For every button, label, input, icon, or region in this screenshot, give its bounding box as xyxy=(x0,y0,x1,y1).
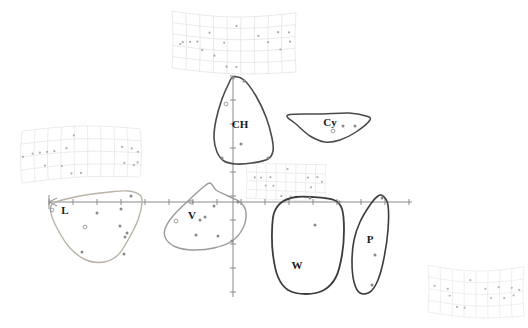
grid-landmark-point xyxy=(272,185,274,187)
data-point xyxy=(243,80,246,83)
data-point xyxy=(354,125,357,128)
grid-landmark-point xyxy=(434,285,436,287)
grid-line-vertical xyxy=(325,165,326,202)
data-point xyxy=(309,197,312,200)
data-point xyxy=(195,234,198,237)
data-point xyxy=(224,102,228,106)
grid-landmark-point xyxy=(267,41,269,43)
grid-line-horizontal xyxy=(21,139,141,145)
grid-landmark-point xyxy=(464,307,466,309)
grid-line-horizontal xyxy=(173,34,295,40)
data-point xyxy=(119,225,122,228)
data-point xyxy=(96,212,99,215)
data-point xyxy=(124,236,127,239)
grid-landmark-point xyxy=(447,288,449,290)
grid-line-horizontal xyxy=(21,151,142,157)
data-point-layer xyxy=(50,77,383,287)
data-point xyxy=(374,254,377,257)
grid-landmark-point xyxy=(469,279,471,281)
grid-line-vertical xyxy=(186,13,187,70)
group-label-p: P xyxy=(367,233,374,245)
grid-line-vertical xyxy=(295,13,296,72)
grid-landmark-point xyxy=(39,152,41,154)
data-point xyxy=(314,224,317,227)
data-point xyxy=(213,205,216,208)
grid-left xyxy=(21,126,142,183)
grid-line-horizontal xyxy=(22,126,140,131)
grid-landmark-point xyxy=(254,176,256,178)
grid-landmark-point xyxy=(288,31,290,33)
data-point xyxy=(371,284,374,287)
figure-canvas: CHCyLVWP xyxy=(0,0,528,328)
data-point xyxy=(232,77,235,80)
data-point xyxy=(338,201,341,204)
group-label-ch: CH xyxy=(232,118,249,130)
axis-layer xyxy=(49,76,412,297)
grid-landmark-point xyxy=(286,168,288,170)
grid-landmark-point xyxy=(137,151,139,153)
group-label-l: L xyxy=(61,204,68,216)
grid-landmark-point xyxy=(44,164,46,166)
grid-landmark-point xyxy=(61,165,63,167)
data-point xyxy=(381,197,384,200)
grid-landmark-point xyxy=(511,287,513,289)
data-point xyxy=(199,219,202,222)
data-point xyxy=(267,157,270,160)
data-point xyxy=(120,208,123,211)
group-label-cy: Cy xyxy=(323,116,337,128)
data-point xyxy=(130,195,133,198)
data-point xyxy=(204,216,207,219)
grid-landmark-point xyxy=(121,146,123,148)
grid-landmark-point xyxy=(518,289,520,291)
grid-top xyxy=(172,11,296,74)
grid-line-horizontal xyxy=(172,68,296,74)
grid-landmark-point xyxy=(269,176,271,178)
data-point xyxy=(81,251,84,254)
grid-landmark-point xyxy=(80,172,82,174)
grid-line-vertical xyxy=(246,163,247,198)
grid-landmark-point xyxy=(46,151,48,153)
grid-landmark-point xyxy=(22,156,24,158)
grid-landmark-point xyxy=(449,295,451,297)
grid-landmark-point xyxy=(133,164,135,166)
grid-landmark-point xyxy=(456,306,458,308)
grid-line-horizontal xyxy=(173,45,295,51)
grid-landmark-point xyxy=(310,186,312,188)
grid-landmark-point xyxy=(484,288,486,290)
grid-landmark-point xyxy=(189,41,191,43)
deformation-grid-layer xyxy=(21,11,525,318)
grid-landmark-point xyxy=(208,32,210,34)
grid-landmark-point xyxy=(265,184,267,186)
grid-landmark-point xyxy=(513,294,515,296)
grid-landmark-point xyxy=(226,66,228,68)
grid-line-horizontal xyxy=(173,23,296,29)
group-hull-w xyxy=(272,197,344,294)
grid-landmark-point xyxy=(235,25,237,27)
grid-landmark-point xyxy=(213,55,215,57)
grid-landmark-point xyxy=(137,161,139,163)
data-point xyxy=(231,240,234,243)
grid-landmark-point xyxy=(131,147,133,149)
grid-landmark-point xyxy=(123,162,125,164)
data-point xyxy=(237,201,240,204)
grid-landmark-point xyxy=(235,66,237,68)
grid-line-vertical xyxy=(268,16,269,74)
grid-line-horizontal xyxy=(172,11,296,17)
data-point xyxy=(83,225,87,229)
grid-line-horizontal xyxy=(21,164,141,170)
grid-landmark-point xyxy=(182,41,184,43)
grid-landmark-point xyxy=(70,172,72,174)
grid-line-vertical xyxy=(200,15,201,72)
grid-landmark-point xyxy=(316,176,318,178)
grid-landmark-point xyxy=(498,286,500,288)
grid-landmark-point xyxy=(307,177,309,179)
data-point xyxy=(240,143,243,146)
grid-landmark-point xyxy=(490,297,492,299)
grid-line-vertical xyxy=(428,265,429,312)
group-label-w: W xyxy=(292,259,303,271)
grid-landmark-point xyxy=(280,195,282,197)
grid-line-vertical xyxy=(281,14,282,73)
grid-landmark-point xyxy=(503,297,505,299)
grid-landmark-point xyxy=(179,43,181,45)
group-label-v: V xyxy=(188,209,196,221)
